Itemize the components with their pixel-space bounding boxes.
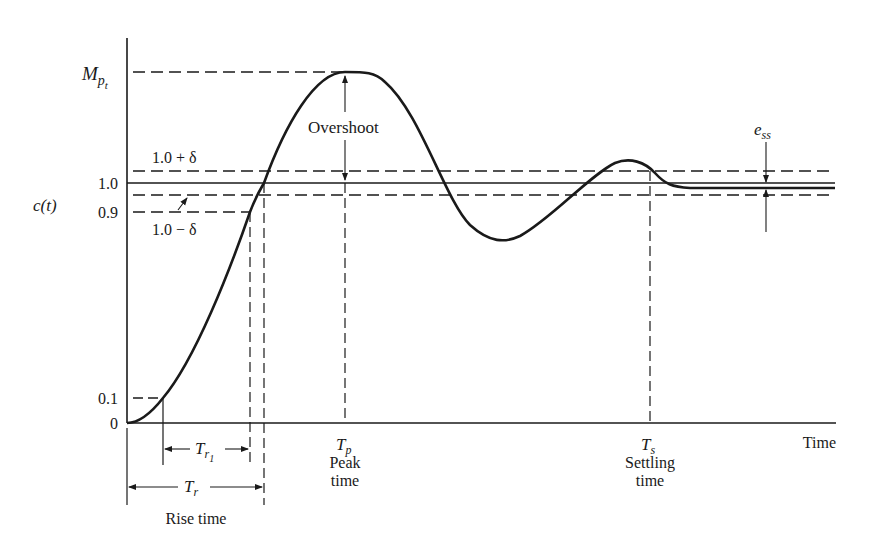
peak-time-label-1: Peak: [329, 454, 360, 471]
rise-time-symbol: Tr: [184, 477, 198, 499]
overshoot-label: Overshoot: [308, 118, 379, 137]
settling-time-label-1: Settling: [625, 454, 675, 472]
tick-label-0-9: 0.9: [98, 204, 118, 221]
rise-time-label: Rise time: [166, 510, 227, 527]
tick-label-0-1: 0.1: [98, 390, 118, 407]
peak-level-label: Mpt: [81, 63, 109, 91]
reference-lines: [127, 72, 835, 505]
axes: [127, 38, 836, 423]
upper-band-label: 1.0 + δ: [152, 149, 197, 166]
tick-label-0: 0: [110, 415, 118, 432]
step-response-diagram: Mpt 1.0 + δ 1.0 − δ 1.0 0.9 0.1 0 c(t) O…: [0, 0, 895, 552]
lower-band-label: 1.0 − δ: [152, 221, 197, 238]
x-axis-label: Time: [803, 434, 836, 451]
lower-band-pointer: [178, 198, 187, 210]
peak-time-label-2: time: [331, 472, 359, 489]
response-curve: [127, 72, 835, 423]
y-axis-label: c(t): [33, 196, 57, 215]
rise-time-10-90-symbol: Tr1: [195, 439, 214, 464]
tick-label-1-0: 1.0: [98, 175, 118, 192]
settling-time-label-2: time: [636, 472, 664, 489]
steady-state-error-label: ess: [754, 120, 771, 142]
